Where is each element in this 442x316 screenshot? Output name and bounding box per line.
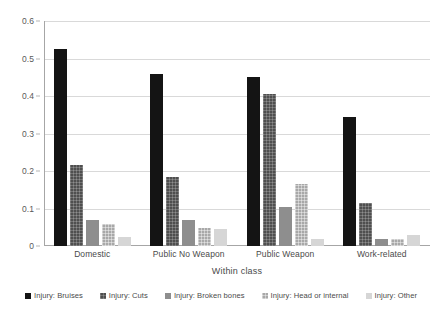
legend-swatch-icon (262, 293, 268, 299)
x-axis-title: Within class (44, 266, 430, 276)
legend-label: Injury: Head or internal (271, 291, 349, 300)
bar-groups (44, 21, 430, 246)
legend-item[interactable]: Injury: Broken bones (165, 291, 245, 300)
bar-group (237, 21, 334, 246)
bar (118, 237, 131, 246)
bar (295, 184, 308, 246)
legend-item[interactable]: Injury: Cuts (100, 291, 148, 300)
y-axis-tick-label: 0.2 (22, 166, 34, 176)
bar (375, 239, 388, 247)
bar (343, 117, 356, 246)
y-axis-tick-label: 0.5 (22, 54, 34, 64)
bar (166, 177, 179, 246)
legend-item[interactable]: Injury: Bruises (25, 291, 83, 300)
legend-label: Injury: Bruises (34, 291, 83, 300)
y-axis-tick (36, 171, 40, 172)
x-axis-tick-labels: DomesticPublic No WeaponPublic WeaponWor… (44, 249, 430, 263)
bar (279, 207, 292, 246)
bar (86, 220, 99, 246)
bar (247, 77, 260, 246)
y-axis-tick (36, 208, 40, 209)
y-axis-tick (36, 133, 40, 134)
bar (70, 165, 83, 246)
legend-swatch-icon (25, 293, 31, 299)
legend-label: Injury: Broken bones (174, 291, 245, 300)
bar-group (141, 21, 238, 246)
y-axis-tick (36, 246, 40, 247)
y-axis-tick (36, 58, 40, 59)
legend-item[interactable]: Injury: Head or internal (262, 291, 349, 300)
bar (102, 224, 115, 247)
chart-legend: Injury: BruisesInjury: CutsInjury: Broke… (0, 291, 442, 300)
bar (54, 49, 67, 246)
y-axis-tick (36, 96, 40, 97)
bar (214, 229, 227, 246)
y-axis-tick-label: 0.3 (22, 129, 34, 139)
bar (359, 203, 372, 246)
legend-swatch-icon (366, 293, 372, 299)
bar-group (334, 21, 431, 246)
bar (198, 228, 211, 246)
x-axis-tick-label: Public No Weapon (141, 249, 238, 263)
legend-label: Injury: Cuts (109, 291, 148, 300)
legend-swatch-icon (165, 293, 171, 299)
plot-area (44, 21, 430, 246)
legend-item[interactable]: Injury: Other (366, 291, 417, 300)
bar (182, 220, 195, 246)
bar-chart: Probability 00.10.20.30.40.50.6 Domestic… (0, 0, 442, 316)
legend-swatch-icon (100, 293, 106, 299)
y-axis-tick-label: 0.1 (22, 204, 34, 214)
y-axis-tick (36, 21, 40, 22)
bar (407, 235, 420, 246)
legend-label: Injury: Other (375, 291, 417, 300)
x-axis-tick-label: Domestic (44, 249, 141, 263)
bar-group (44, 21, 141, 246)
bar (263, 94, 276, 246)
y-axis-tick-labels: 00.10.20.30.40.50.6 (0, 21, 40, 246)
x-axis-tick-label: Work-related (334, 249, 431, 263)
bar (311, 239, 324, 247)
bar (150, 74, 163, 246)
y-axis-tick-label: 0.6 (22, 16, 34, 26)
y-axis-tick-label: 0.4 (22, 91, 34, 101)
y-axis-tick-label: 0 (29, 241, 34, 251)
x-axis-tick-label: Public Weapon (237, 249, 334, 263)
bar (391, 239, 404, 247)
